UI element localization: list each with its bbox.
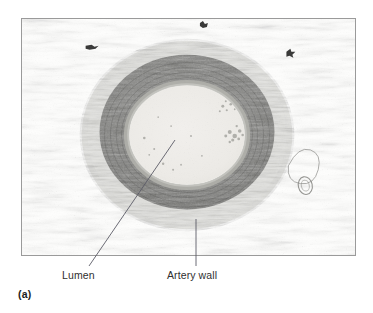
vessel-lumen — [22, 19, 355, 255]
label-lumen: Lumen — [62, 269, 95, 281]
artery-cross-section-micrograph — [22, 19, 355, 255]
figure-root: Lumen Artery wall (a) — [0, 0, 373, 313]
panel-letter: (a) — [18, 288, 31, 300]
micrograph-frame — [21, 18, 356, 256]
label-artery-wall: Artery wall — [167, 269, 217, 281]
